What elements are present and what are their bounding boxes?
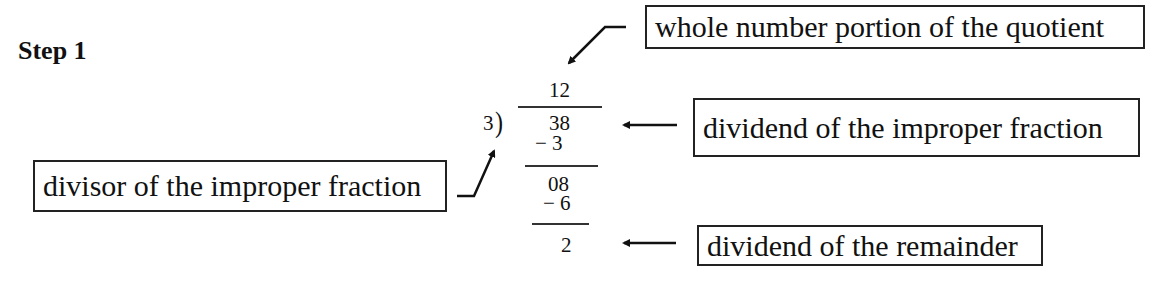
arrow-to-divisor-icon [457, 151, 494, 196]
arrow-to-quotient-icon [569, 27, 626, 63]
annotation-arrows [0, 0, 1168, 284]
